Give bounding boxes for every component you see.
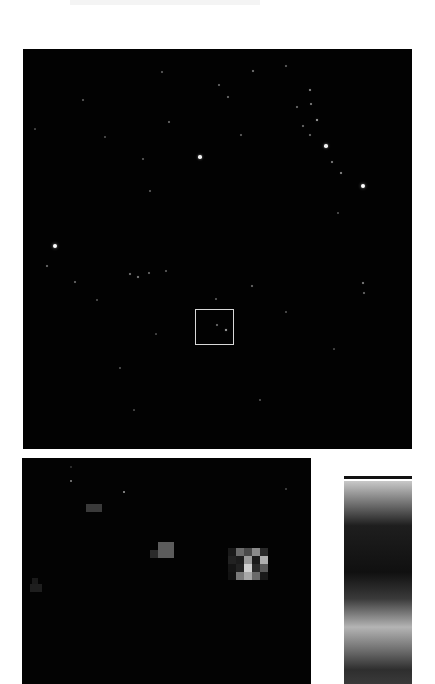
- star-point: [251, 285, 253, 287]
- star-point: [142, 158, 144, 160]
- inset-faint-point: [70, 466, 72, 468]
- colorbar-gradient[interactable]: [344, 481, 412, 684]
- inset-star-pixel: [252, 556, 260, 564]
- star-point: [53, 244, 57, 248]
- star-point: [296, 106, 298, 108]
- image-viewer-page: [0, 0, 435, 684]
- star-point: [302, 125, 304, 127]
- star-point: [324, 144, 328, 148]
- star-point: [129, 273, 131, 275]
- star-point: [259, 399, 260, 400]
- inset-star-pixel: [244, 564, 252, 572]
- star-point: [148, 272, 150, 274]
- star-point: [309, 134, 311, 136]
- inset-star-pixel: [260, 548, 268, 556]
- inset-star-pixel: [244, 572, 252, 580]
- star-point: [316, 119, 318, 121]
- star-point: [104, 136, 105, 137]
- inset-pixel-feature: [158, 542, 174, 558]
- star-point: [198, 155, 202, 159]
- star-point: [361, 184, 365, 188]
- star-point: [333, 348, 334, 349]
- star-point: [82, 99, 84, 101]
- star-point: [215, 298, 217, 300]
- star-point: [119, 367, 120, 368]
- zoom-inset-view[interactable]: [22, 458, 311, 684]
- inset-faint-point: [123, 491, 125, 493]
- star-point: [149, 190, 151, 192]
- colorbar-cap: [344, 476, 412, 479]
- star-point: [46, 265, 48, 267]
- inset-star-pixel: [228, 572, 236, 580]
- inset-star-pixel: [260, 556, 268, 564]
- star-point: [285, 311, 286, 312]
- star-point: [340, 172, 342, 174]
- star-point: [155, 333, 156, 334]
- inset-star-pixel: [252, 548, 260, 556]
- star-point: [331, 161, 333, 163]
- inset-faint-point: [285, 488, 287, 490]
- inset-star-pixel: [228, 548, 236, 556]
- star-point: [161, 71, 162, 72]
- star-point: [34, 128, 35, 129]
- inset-star-pixel: [260, 564, 268, 572]
- star-point: [240, 134, 242, 136]
- main-star-field-image[interactable]: [23, 49, 412, 449]
- inset-star-pixel: [260, 572, 268, 580]
- inset-star-pixel: [244, 556, 252, 564]
- inset-faint-point: [70, 480, 72, 482]
- inset-pixel-feature: [30, 584, 42, 592]
- star-point: [227, 96, 229, 98]
- star-point: [137, 276, 139, 278]
- star-point: [363, 292, 365, 294]
- star-point: [133, 409, 134, 410]
- header-remnant: [70, 0, 260, 5]
- star-point: [218, 84, 220, 86]
- star-point: [165, 270, 166, 271]
- inset-star-pixel: [236, 572, 244, 580]
- colorbar[interactable]: [344, 476, 412, 684]
- star-point: [96, 299, 97, 300]
- inset-pixel-feature: [86, 504, 102, 512]
- inset-star-pixel: [252, 572, 260, 580]
- inset-star-pixel: [244, 548, 252, 556]
- star-point: [310, 103, 312, 105]
- star-point: [168, 121, 170, 123]
- inset-star-pixel: [236, 556, 244, 564]
- star-point: [362, 282, 364, 284]
- inset-star-pixel: [228, 564, 236, 572]
- inset-star-pixel: [252, 564, 260, 572]
- star-point: [285, 65, 287, 67]
- star-point: [252, 70, 254, 72]
- inset-star-pixel: [228, 556, 236, 564]
- star-point: [74, 281, 76, 283]
- zoom-selection-box[interactable]: [195, 309, 234, 345]
- star-point: [309, 89, 311, 91]
- star-point: [337, 212, 338, 213]
- inset-star-pixel: [236, 564, 244, 572]
- inset-pixel-feature: [150, 550, 158, 558]
- inset-star-pixel: [236, 548, 244, 556]
